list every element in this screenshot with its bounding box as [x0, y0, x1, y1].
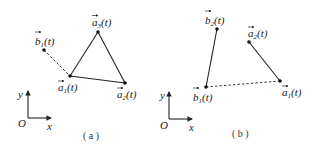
- edge-a1-a2: [70, 76, 125, 83]
- point-a2: [247, 40, 251, 44]
- origin-label: O: [160, 119, 168, 131]
- x-axis-label: x: [46, 120, 52, 132]
- edge-b1-a1-dashed: [44, 50, 70, 76]
- label-a1: a1(t): [58, 81, 78, 95]
- edge-a1-a3: [70, 32, 98, 76]
- svg-text:a1(t): a1(t): [58, 81, 78, 95]
- svg-text:b1(t): b1(t): [193, 91, 213, 105]
- svg-text:a1(t): a1(t): [282, 86, 302, 100]
- origin-label: O: [18, 117, 26, 129]
- x-axis-label: x: [188, 121, 194, 133]
- label-a3: a3(t): [92, 16, 112, 31]
- caption-b: ( b ): [232, 128, 249, 140]
- label-a2: a2(t): [248, 27, 268, 41]
- edge-b1-a1-dashed: [206, 81, 280, 87]
- diagram-canvas: a3(t) b1(t) a1(t) a2(t) y O x ( a ): [0, 0, 312, 152]
- svg-text:a2(t): a2(t): [248, 27, 268, 41]
- svg-text:b1(t): b1(t): [35, 35, 55, 49]
- label-a2: a2(t): [117, 88, 137, 102]
- axes-a: y O x: [17, 88, 52, 132]
- caption-a: ( a ): [83, 130, 99, 142]
- edge-a2-a1: [249, 42, 280, 81]
- panel-b: b2(t) a2(t) b1(t) a1(t) y O x ( b ): [159, 11, 302, 140]
- edge-a3-a2: [98, 32, 125, 83]
- svg-text:a2(t): a2(t): [117, 88, 137, 102]
- edge-b1-b2: [206, 29, 217, 87]
- point-a2: [123, 81, 127, 85]
- y-axis-label: y: [17, 88, 23, 100]
- point-a1: [278, 79, 282, 83]
- svg-text:b2(t): b2(t): [205, 14, 225, 28]
- point-b2: [215, 27, 219, 31]
- point-a3: [96, 30, 100, 34]
- label-b1: b1(t): [193, 88, 213, 105]
- label-b1: b1(t): [35, 32, 55, 49]
- point-a1: [68, 74, 72, 78]
- svg-text:a3(t): a3(t): [92, 16, 112, 30]
- panel-a: a3(t) b1(t) a1(t) a2(t) y O x ( a ): [17, 16, 137, 143]
- y-axis-label: y: [159, 89, 165, 101]
- label-a1: a1(t): [282, 86, 302, 100]
- label-b2: b2(t): [205, 11, 225, 28]
- axes-b: y O x: [159, 89, 194, 133]
- point-b1: [204, 85, 208, 89]
